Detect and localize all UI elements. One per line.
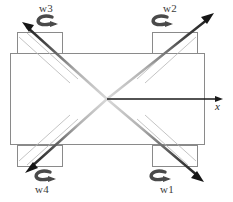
rotor-housing-w2 [153, 33, 198, 54]
figure-canvas: w3 w2 w4 w1 x [0, 0, 233, 202]
x-axis-label: x [215, 101, 220, 112]
spin-arrow-w3-icon [38, 16, 58, 27]
rotor-housing-w3 [18, 33, 63, 54]
rotor-label-w2: w2 [163, 3, 177, 14]
rotor-label-w4: w4 [35, 184, 49, 195]
rotor-label-w1: w1 [160, 184, 174, 195]
spin-arrow-w2-icon [153, 16, 173, 27]
spin-arrow-w4-icon [36, 171, 56, 182]
spin-arrow-w1-icon [151, 171, 171, 182]
rotor-label-w3: w3 [39, 3, 53, 14]
diagram-svg [0, 0, 233, 202]
